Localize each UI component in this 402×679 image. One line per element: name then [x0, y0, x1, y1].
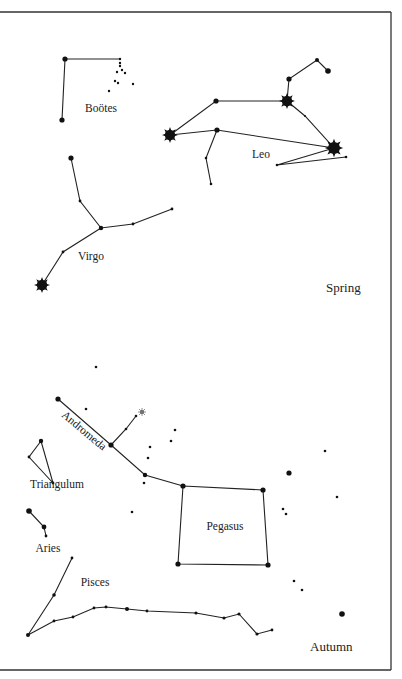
constellation-virgo: Virgo	[34, 155, 173, 293]
constellation-leo: Leo	[162, 58, 347, 185]
label-virgo: Virgo	[78, 250, 104, 263]
label-bootes: Boötes	[85, 102, 117, 114]
chart-frame	[0, 12, 391, 670]
label-pegasus: Pegasus	[206, 520, 244, 533]
bright-star-icon	[34, 277, 50, 293]
season-label-autumn: Autumn	[310, 639, 353, 654]
label-triangulum: Triangulum	[30, 478, 84, 491]
constellation-andromeda: Andromeda	[55, 396, 183, 486]
constellation-triangulum: Triangulum	[28, 439, 84, 491]
constellation-pegasus: Pegasus	[175, 483, 270, 567]
label-pisces: Pisces	[81, 576, 110, 588]
bright-star-icon	[325, 139, 343, 157]
season-label-spring: Spring	[326, 280, 361, 295]
constellation-bootes: Boötes	[59, 56, 134, 122]
constellation-pisces: Pisces	[26, 557, 273, 637]
bright-star-icon	[279, 93, 295, 109]
bright-star-icon	[162, 127, 178, 143]
label-andromeda: Andromeda	[60, 408, 109, 452]
constellation-aries: Aries	[26, 508, 61, 554]
field-stars	[85, 366, 345, 617]
star-chart: Boötes Leo Virgo Spring	[0, 0, 402, 679]
galaxy-icon	[138, 408, 146, 416]
label-leo: Leo	[252, 148, 270, 160]
label-aries: Aries	[36, 542, 61, 554]
